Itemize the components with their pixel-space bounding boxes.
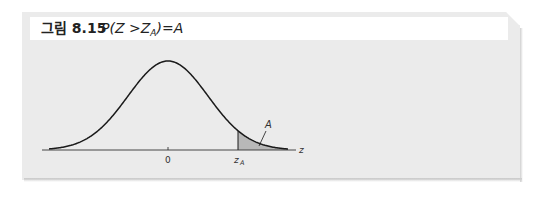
normal-curve — [49, 61, 288, 149]
area-label-a: A — [264, 119, 272, 130]
tick-label-zero: 0 — [165, 155, 171, 165]
shaded-tail-area — [238, 131, 288, 150]
normal-distribution-plot: 0 z A z A — [0, 0, 543, 198]
axis-label-z: z — [298, 145, 304, 155]
tick-label-z-a-base: z — [233, 155, 239, 165]
tick-label-z-a-subscript: A — [239, 159, 244, 167]
